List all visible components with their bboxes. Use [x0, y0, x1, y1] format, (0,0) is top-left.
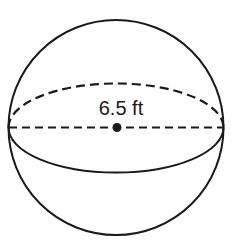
equator-front-solid — [9, 128, 224, 173]
sphere-svg: 6.5 ft — [0, 0, 239, 243]
sphere-diagram: 6.5 ft — [0, 0, 239, 243]
radius-label: 6.5 ft — [99, 97, 144, 119]
center-point — [113, 123, 122, 132]
